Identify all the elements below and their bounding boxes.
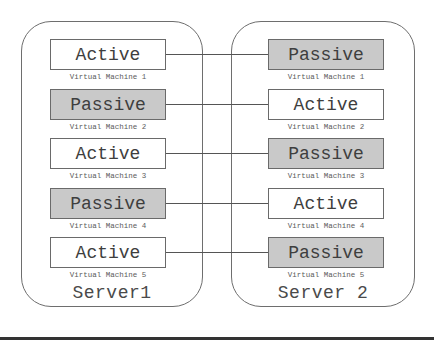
server-2-vm-4-box: Active [268,188,384,219]
server-1-vm-1-box: Active [50,39,166,70]
connector-vm3-overlay [166,153,268,154]
server-2-vm-3-box: Passive [268,138,384,169]
connector-vm5-overlay [166,252,268,253]
connector-vm2-overlay [166,104,268,105]
server-1-vm-3-box: Active [50,138,166,169]
server-2-vm-1-caption: Virtual Machine 1 [268,73,384,81]
connector-vm1-overlay [166,54,268,55]
server-2-vm-5-caption: Virtual Machine 5 [268,271,384,279]
server-2-vm-4-caption: Virtual Machine 4 [268,222,384,230]
server-1-vm-1-caption: Virtual Machine 1 [50,73,166,81]
server-1-vm-5-caption: Virtual Machine 5 [50,271,166,279]
bottom-divider [0,337,434,340]
server-1-vm-4-caption: Virtual Machine 4 [50,222,166,230]
server-2-label: Server 2 [232,283,414,303]
server-2-vm-1-box: Passive [268,39,384,70]
server-2-vm-3-caption: Virtual Machine 3 [268,172,384,180]
server-1-vm-2-box: Passive [50,89,166,120]
server-1-vm-4-box: Passive [50,188,166,219]
server-2-vm-2-box: Active [268,89,384,120]
server-2-vm-2-caption: Virtual Machine 2 [268,123,384,131]
server-1-label: Server1 [22,283,202,303]
server-1-vm-2-caption: Virtual Machine 2 [50,123,166,131]
connector-vm4-overlay [166,203,268,204]
server-2-vm-5-box: Passive [268,237,384,268]
server-1-vm-5-box: Active [50,237,166,268]
server-1-vm-3-caption: Virtual Machine 3 [50,172,166,180]
